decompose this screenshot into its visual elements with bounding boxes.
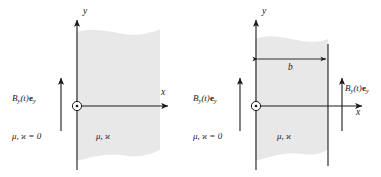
field-unit-vector-subscript: y	[214, 97, 217, 104]
field-unit-vector-subscript: y	[33, 97, 36, 104]
field-argument: (t)	[353, 83, 362, 93]
inside-material-label: μ, ϰ	[96, 132, 110, 141]
field-argument: (t)	[201, 93, 210, 103]
x-axis-label: x	[356, 108, 360, 118]
y-axis-label: y	[83, 7, 87, 17]
origin-circle-dot-icon	[72, 101, 81, 110]
y-axis-label: y	[262, 7, 266, 17]
outside-material-label: μ, ϰ = 0	[12, 132, 41, 141]
outside-material-label: μ, ϰ = 0	[193, 132, 222, 141]
x-axis-label: x	[161, 88, 165, 98]
magnetic-field-label-left: By(t)ey	[193, 94, 217, 104]
magnetic-field-label-right: By(t)ey	[345, 84, 369, 94]
inside-material-label: μ, ϰ	[277, 132, 291, 141]
magnetic-field-label: By(t)ey	[12, 94, 36, 104]
slab-panel: y x b By(t)ey By(t)ey μ, ϰ = 0 μ, ϰ	[190, 0, 381, 177]
half-space-panel: y x By(t)ey μ, ϰ = 0 μ, ϰ	[0, 0, 190, 177]
thickness-label: b	[288, 63, 293, 73]
material-region-shaded	[76, 30, 160, 162]
material-slab-shaded	[255, 36, 328, 161]
field-argument: (t)	[20, 93, 29, 103]
field-unit-vector-subscript: y	[366, 87, 369, 94]
origin-circle-dot-icon	[251, 101, 260, 110]
figure-root: y x By(t)ey μ, ϰ = 0 μ, ϰ	[0, 0, 381, 177]
